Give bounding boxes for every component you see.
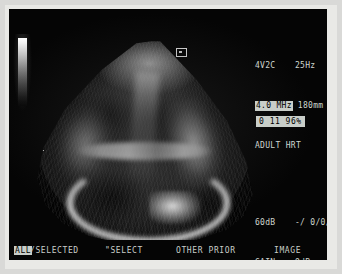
param-spacer bbox=[255, 181, 327, 188]
grayscale-calibration-wedge bbox=[18, 38, 27, 106]
ultrasound-sector-image bbox=[37, 35, 253, 240]
cursor-marker-box[interactable] bbox=[176, 48, 187, 57]
param-row-preset: ADULT HRT bbox=[255, 141, 327, 151]
status-selected-label[interactable]: /SELECTED bbox=[30, 246, 79, 255]
preset-label: ADULT HRT bbox=[255, 141, 301, 151]
frame-rate-label: 25Hz bbox=[295, 61, 315, 71]
status-select-softkey[interactable]: "SELECT bbox=[105, 246, 143, 255]
param-row-dynamic-range: 60dB -/ 0/0/0 bbox=[255, 218, 327, 228]
depth-tick-marker-secondary bbox=[39, 153, 42, 154]
sector-clip bbox=[37, 35, 253, 240]
depth-label: 180mm bbox=[298, 101, 324, 111]
status-bar: ALL /SELECTED "SELECT OTHER PRIOR IMAGE bbox=[9, 241, 327, 260]
map-settings-label: -/ 0/0/0 bbox=[295, 218, 327, 228]
cine-status-box[interactable]: 0 11 96% bbox=[256, 116, 305, 127]
dynamic-range-label: 60dB bbox=[255, 218, 290, 228]
status-other-prior-softkey[interactable]: OTHER PRIOR bbox=[176, 246, 236, 255]
status-image-softkey[interactable]: IMAGE bbox=[274, 246, 301, 255]
atrioventricular-valve-plane bbox=[76, 142, 214, 160]
frequency-field[interactable]: 4.0 MHz bbox=[255, 101, 293, 111]
param-row-probe-framerate: 4V2C 25Hz bbox=[255, 61, 327, 71]
parameter-panel: 4V2C 25Hz 4.0 MHz 180mm ADULT HRT 60dB -… bbox=[255, 31, 327, 260]
probe-label: 4V2C bbox=[255, 61, 290, 71]
cursor-marker-fill bbox=[179, 51, 182, 53]
param-row-frequency-depth: 4.0 MHz 180mm bbox=[255, 101, 327, 111]
ultrasound-screen: 4V2C 25Hz 4.0 MHz 180mm ADULT HRT 60dB -… bbox=[9, 9, 327, 260]
depth-tick-marker bbox=[39, 150, 44, 151]
bright-reflector bbox=[149, 191, 201, 224]
device-frame: 4V2C 25Hz 4.0 MHz 180mm ADULT HRT 60dB -… bbox=[0, 0, 342, 274]
